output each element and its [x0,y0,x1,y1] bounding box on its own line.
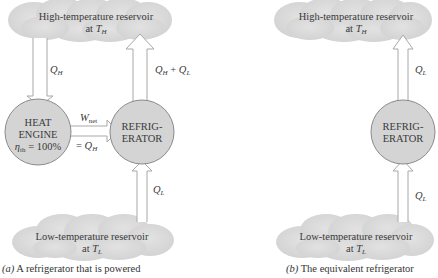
reservoir-title: Low-temperature reservoir [296,231,416,243]
var: Q [85,140,93,151]
reservoir-title: High-temperature reservoir [36,11,156,23]
sub: L [161,189,165,197]
engine-line1: HEAT [8,117,68,129]
reservoir-temp: at TL [296,243,416,258]
ql-label-bottom-b: QL [415,190,427,205]
low-reservoir-label-a: Low-temperature reservoir at TL [32,231,152,258]
ql-label-a: QL [153,184,165,199]
ql-label-top-b: QL [415,64,427,79]
engine-line2: ENGINE [8,129,68,141]
caption-a: (a) A refrigerator that is powered [2,263,141,274]
reservoir-title: High-temperature reservoir [296,11,416,23]
refrigerator-label-b: REFRIG- ERATOR [373,121,433,145]
reservoir-title: Low-temperature reservoir [32,231,152,243]
sub: L [423,69,427,77]
sub: L [423,195,427,203]
fridge-line2: ERATOR [112,133,172,145]
prefix: at [345,23,355,34]
caption-label: (b) [286,263,298,274]
reservoir-temp: at TH [296,23,416,38]
sub: H [92,145,97,153]
caption-text: The equivalent refrigerator [298,263,414,274]
qh-label: QH [50,64,63,79]
fridge-line1: REFRIG- [112,121,172,133]
sub: L [98,248,102,256]
prefix: at [346,243,356,254]
reservoir-temp: at TH [36,23,156,38]
var: Q [50,64,58,75]
efficiency: ηth = 100% [8,141,68,156]
wnet-label: Wnet [80,112,97,127]
value: = 100% [26,141,62,152]
high-reservoir-label-b: High-temperature reservoir at TH [296,11,416,38]
fridge-line1: REFRIG- [373,121,433,133]
sub: H [361,28,366,36]
heat-engine-label: HEAT ENGINE ηth = 100% [8,117,68,156]
sub: H [58,69,63,77]
var: Q [153,184,161,195]
prefix: at [82,243,92,254]
arrow-qh-plus-ql [126,34,154,108]
prefix: at [85,23,95,34]
fridge-line2: ERATOR [373,133,433,145]
qh-plus-ql-label: QH + QL [155,64,190,79]
sub: H [101,28,106,36]
op: + [168,64,179,75]
reservoir-temp: at TL [32,243,152,258]
var1: Q [155,64,163,75]
caption-text: A refrigerator that is powered [14,263,140,274]
caption-label: (a) [2,263,14,274]
sub: L [362,248,366,256]
var: Q [415,64,423,75]
low-reservoir-label-b: Low-temperature reservoir at TL [296,231,416,258]
arrow-ql-top-b [393,35,413,110]
refrigerator-label-a: REFRIG- ERATOR [112,121,172,145]
prefix: = [76,140,85,151]
sub: net [89,117,98,125]
var: W [80,112,89,123]
sub2: L [186,69,190,77]
arrow-ql-a [132,161,152,222]
high-reservoir-label-a: High-temperature reservoir at TH [36,11,156,38]
arrow-ql-bottom-b [393,160,413,222]
var: Q [415,190,423,201]
wnet-equals-label: = QH [76,140,97,155]
caption-b: (b) The equivalent refrigerator [286,263,414,274]
